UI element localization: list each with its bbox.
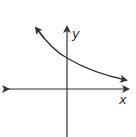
decay-curve (37, 29, 126, 80)
x-axis-label: x (118, 92, 127, 107)
y-axis-label: y (71, 26, 80, 41)
curve-arrow-left (36, 28, 44, 38)
graph: y x (0, 0, 136, 137)
